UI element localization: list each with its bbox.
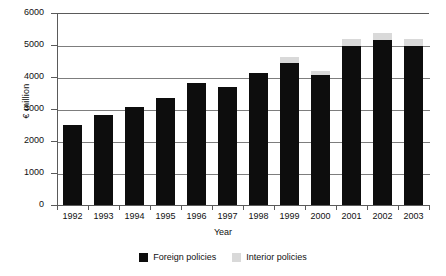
x-tick-mark (398, 205, 399, 210)
x-tick-mark (243, 205, 244, 210)
x-tick-mark (212, 205, 213, 210)
chart-legend: Foreign policiesInterior policies (0, 252, 446, 262)
bar-segment-foreign-policies (156, 98, 175, 205)
bar-segment-foreign-policies (342, 46, 361, 205)
bar-segment-foreign-policies (94, 115, 113, 205)
legend-entry: Foreign policies (139, 252, 216, 262)
y-tick-label: 5000 (10, 40, 44, 49)
x-tick-mark (336, 205, 337, 210)
bar-segment-foreign-policies (187, 83, 206, 205)
bar-segment-foreign-policies (218, 87, 237, 205)
bar-segment-interior-policies (280, 57, 299, 63)
x-tick-mark (150, 205, 151, 210)
x-tick-mark (367, 205, 368, 210)
bar-segment-foreign-policies (125, 107, 144, 205)
bars-layer (57, 13, 429, 205)
legend-label: Interior policies (246, 252, 307, 262)
y-tick-label: 0 (10, 200, 44, 209)
x-tick-label: 2003 (394, 212, 434, 221)
bar-segment-foreign-policies (63, 125, 82, 205)
bar-segment-foreign-policies (404, 46, 423, 205)
bar-segment-interior-policies (404, 39, 423, 46)
bar-segment-foreign-policies (280, 63, 299, 205)
y-tick-label: 2000 (10, 136, 44, 145)
x-tick-mark (305, 205, 306, 210)
legend-label: Foreign policies (153, 252, 216, 262)
x-tick-mark (181, 205, 182, 210)
x-tick-mark (429, 205, 430, 210)
x-axis-title: Year (0, 227, 446, 237)
bar-segment-interior-policies (342, 39, 361, 46)
bar-chart: € million 0100020003000400050006000 1992… (0, 0, 446, 276)
bar-segment-foreign-policies (373, 40, 392, 205)
bar-segment-foreign-policies (311, 75, 330, 205)
bar-segment-interior-policies (311, 71, 330, 75)
y-tick-label: 3000 (10, 104, 44, 113)
y-tick-label: 1000 (10, 168, 44, 177)
bar-segment-foreign-policies (249, 73, 268, 205)
legend-swatch-icon (232, 253, 241, 262)
y-tick-label: 6000 (10, 8, 44, 17)
x-tick-mark (57, 205, 58, 210)
legend-entry: Interior policies (232, 252, 307, 262)
x-tick-mark (274, 205, 275, 210)
legend-swatch-icon (139, 253, 148, 262)
bar-segment-interior-policies (373, 33, 392, 41)
x-tick-mark (119, 205, 120, 210)
y-tick-label: 4000 (10, 72, 44, 81)
x-tick-mark (88, 205, 89, 210)
